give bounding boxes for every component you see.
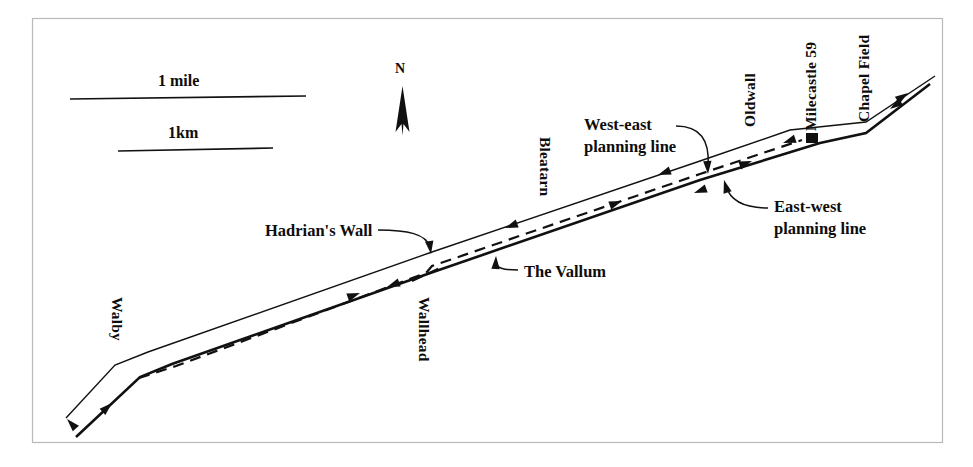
milecastle-59-marker bbox=[806, 133, 818, 143]
route-arrow-oldwall-lower-west bbox=[693, 185, 708, 197]
east-west-planning-leader-arrow bbox=[720, 179, 732, 194]
annotation-the-vallum: The Vallum bbox=[524, 262, 606, 281]
place-label-oldwall: Oldwall bbox=[741, 73, 758, 127]
place-label-milecastle-59: Milecastle 59 bbox=[802, 42, 819, 131]
scale-bar-mile bbox=[70, 96, 306, 99]
annotation-hadrians-wall: Hadrian's Wall bbox=[265, 221, 373, 240]
east-west-planning-leader bbox=[726, 186, 768, 208]
annotation-west-east-line1: West-east bbox=[584, 115, 652, 134]
place-label-wallhead: Wallhead bbox=[416, 297, 433, 362]
north-arrow-icon bbox=[396, 86, 410, 136]
place-label-bleatarn: Bleatarn bbox=[537, 137, 554, 196]
annotation-east-west-line2: planning line bbox=[774, 219, 866, 238]
place-label-walby: Walby bbox=[109, 297, 126, 341]
map-figure: 1 mile 1km N bbox=[0, 0, 973, 467]
hadrians-wall-south-line bbox=[76, 84, 930, 437]
scale-label-mile: 1 mile bbox=[158, 72, 199, 89]
scale-bar-km bbox=[118, 148, 273, 151]
annotation-east-west-line1: East-west bbox=[774, 197, 842, 216]
route-arrow-oldwall-upper-west bbox=[657, 167, 672, 179]
hadrians-wall-leader bbox=[378, 230, 430, 247]
annotation-west-east-line2: planning line bbox=[584, 137, 676, 156]
map-canvas: 1 mile 1km N bbox=[0, 0, 973, 467]
north-arrow-group: N bbox=[395, 61, 410, 136]
place-label-chapel-field: Chapel Field bbox=[855, 35, 872, 122]
vallum-leader-arrow bbox=[491, 256, 500, 269]
north-label: N bbox=[395, 61, 405, 76]
scale-label-km: 1km bbox=[168, 124, 199, 141]
route-arrow-mid-upper-west bbox=[504, 220, 519, 232]
route-arrow-sw-upper bbox=[64, 416, 79, 431]
